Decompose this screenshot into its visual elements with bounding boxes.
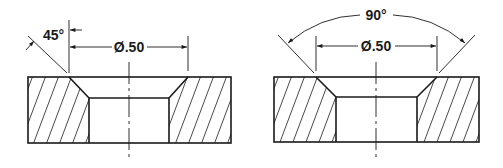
angle-arc-right-a: [288, 15, 360, 43]
countersink-drawing: Ø.50 45°: [0, 0, 503, 168]
left-figure: Ø.50 45°: [5, 20, 255, 160]
angle-label-right: 90°: [365, 7, 386, 23]
section-hatching-right: [251, 70, 503, 150]
angle-extension-right-b: [439, 35, 475, 73]
countersink-edge-right-a: [316, 77, 336, 142]
right-figure: Ø.50 90°: [251, 7, 503, 160]
angle-extension-right-a: [278, 35, 314, 73]
angle-label-left: 45°: [43, 27, 64, 43]
section-hatching-left: [5, 70, 255, 150]
countersink-edge-left-b: [169, 77, 188, 143]
part-outline-right: [274, 77, 479, 142]
angle-arrow-left: [26, 41, 34, 50]
angle-arc-right-b: [393, 15, 465, 43]
part-outline-left: [28, 77, 231, 143]
countersink-edge-right-b: [417, 77, 437, 142]
diameter-label-left: Ø.50: [114, 39, 145, 55]
diameter-label-right: Ø.50: [361, 38, 392, 54]
